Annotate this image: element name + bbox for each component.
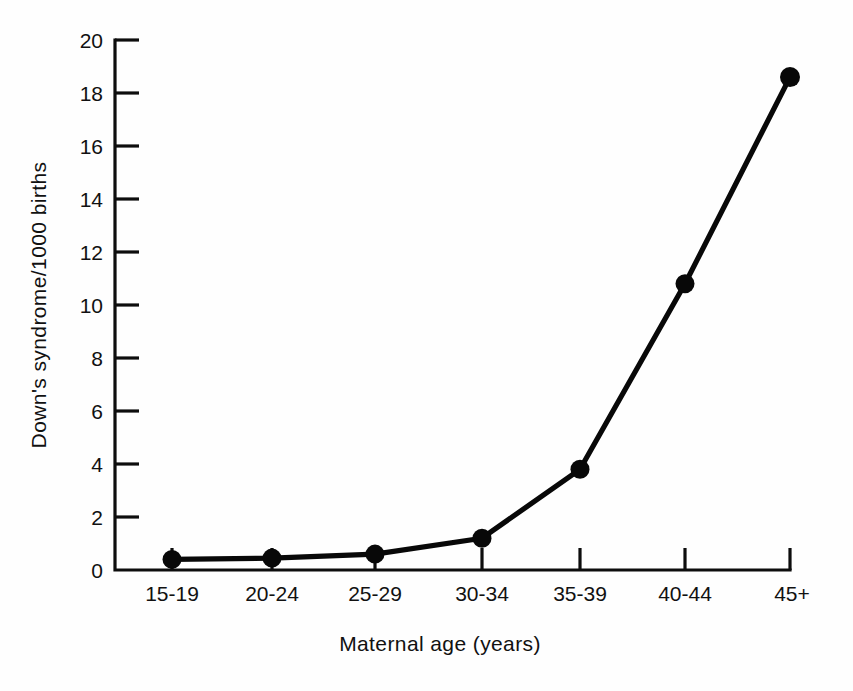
- y-axis-ticks: [115, 40, 139, 517]
- x-axis-title: Maternal age (years): [339, 632, 541, 655]
- x-tick-label-15-19: 15-19: [145, 582, 199, 605]
- y-tick-label-10: 10: [80, 294, 103, 317]
- x-tick-label-40-44: 40-44: [658, 582, 712, 605]
- data-point-25-29: [366, 545, 385, 564]
- line-chart-canvas: 20 18 16 14 12 10 8 6 4 2 0 15-19 20-24 …: [0, 0, 853, 691]
- x-axis-tick-labels: 15-19 20-24 25-29 30-34 35-39 40-44 45+: [145, 582, 810, 605]
- y-tick-label-16: 16: [80, 135, 103, 158]
- data-markers: [163, 67, 801, 569]
- x-tick-label-25-29: 25-29: [348, 582, 402, 605]
- y-axis-title: Down's syndrome/1000 births: [27, 162, 50, 449]
- x-tick-label-20-24: 20-24: [245, 582, 299, 605]
- y-tick-label-6: 6: [91, 400, 103, 423]
- y-tick-label-8: 8: [91, 347, 103, 370]
- x-tick-label-30-34: 30-34: [455, 582, 509, 605]
- data-point-20-24: [263, 549, 282, 568]
- y-axis-tick-labels: 20 18 16 14 12 10 8 6 4 2 0: [80, 29, 104, 582]
- data-point-30-34: [473, 529, 492, 548]
- data-point-40-44: [676, 274, 695, 293]
- x-tick-label-45-plus: 45+: [774, 582, 810, 605]
- chart-figure: 20 18 16 14 12 10 8 6 4 2 0 15-19 20-24 …: [0, 0, 853, 691]
- x-tick-label-35-39: 35-39: [553, 582, 607, 605]
- data-point-15-19: [163, 550, 182, 569]
- y-tick-label-12: 12: [80, 241, 103, 264]
- data-series-line: [172, 77, 790, 559]
- y-tick-label-4: 4: [91, 453, 103, 476]
- y-tick-label-2: 2: [91, 506, 103, 529]
- y-tick-label-14: 14: [80, 188, 104, 211]
- axis-spines: [115, 40, 790, 570]
- y-tick-label-20: 20: [80, 29, 103, 52]
- y-tick-label-18: 18: [80, 82, 103, 105]
- y-tick-label-0: 0: [91, 559, 103, 582]
- data-point-35-39: [571, 460, 590, 479]
- data-point-45-plus: [780, 67, 800, 87]
